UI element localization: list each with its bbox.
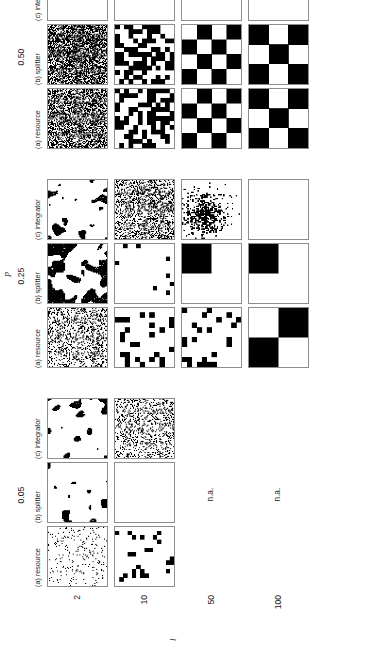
panel-resource-p050-l10 [114,88,175,149]
panel-canvas [182,308,241,367]
subpanel-label-resource-p050: (a) resource [34,110,41,149]
panel-resource-p005-l2 [47,526,108,587]
panel-canvas [115,399,174,458]
row-label-l-10: 10 [140,595,149,621]
panel-splitter-p025-l50 [181,243,242,304]
panel-canvas [115,463,174,522]
panel-splitter-p005-l2 [47,462,108,523]
p-axis-symbol: p [2,272,11,277]
panel-splitter-p025-l2 [47,243,108,304]
panel-canvas [115,89,174,148]
panel-resource-p005-l10 [114,526,175,587]
panel-splitter-p025-l10 [114,243,175,304]
panel-splitter-p005-l10 [114,462,175,523]
panel-canvas [249,308,308,367]
panel-canvas [182,25,241,84]
p-value-label-025: 0.25 [17,268,26,285]
panel-canvas [48,25,107,84]
p-value-label-005: 0.05 [17,487,26,504]
not-available-label: n.a. [207,488,215,502]
panel-canvas [115,0,174,20]
subpanel-label-splitter-p025: (b) splitter [34,272,41,304]
panel-integrator-p025-l10 [114,179,175,240]
panel-canvas [182,180,241,239]
panel-canvas [249,244,308,303]
subpanel-label-splitter-p005: (b) splitter [34,491,41,523]
panel-canvas [48,180,107,239]
panel-canvas [48,527,107,586]
panel-canvas [182,89,241,148]
panel-canvas [48,89,107,148]
subpanel-label-splitter-p050: (b) splitter [34,53,41,85]
panel-integrator-p050-l50 [181,0,242,21]
not-available-label: n.a. [274,488,282,502]
rotated-figure-wrapper: n.a.n.a.(a) resource(b) splitter(c) inte… [0,0,367,664]
panel-canvas [48,399,107,458]
panel-canvas [48,308,107,367]
panel-resource-p050-l2 [47,88,108,149]
panel-canvas [115,180,174,239]
panel-integrator-p025-l50 [181,179,242,240]
panel-resource-p050-l100 [248,88,309,149]
panel-splitter-p050-l100 [248,24,309,85]
subpanel-label-resource-p005: (a) resource [34,548,41,587]
panel-canvas [48,0,107,20]
panel-canvas [249,89,308,148]
panel-splitter-p050-l10 [114,24,175,85]
row-label-l-2: 2 [73,595,82,621]
panel-integrator-p005-l10 [114,398,175,459]
panel-integrator-p050-l2 [47,0,108,21]
panel-resource-p025-l2 [47,307,108,368]
panel-canvas [115,244,174,303]
l-axis-symbol: l [169,638,178,641]
panel-canvas [115,25,174,84]
panel-canvas [115,308,174,367]
panel-canvas [182,0,241,20]
subpanel-label-integrator-p005: (c) integrator [34,418,41,459]
panel-canvas [249,25,308,84]
panel-canvas [182,244,241,303]
panel-resource-p025-l10 [114,307,175,368]
panel-integrator-p005-l2 [47,398,108,459]
panel-integrator-p025-l2 [47,179,108,240]
panel-canvas [48,463,107,522]
panel-canvas [115,527,174,586]
subpanel-label-resource-p025: (a) resource [34,329,41,368]
panel-canvas [48,244,107,303]
panel-integrator-p050-l100 [248,0,309,21]
p-value-label-050: 0.50 [17,49,26,66]
panel-canvas [249,0,308,20]
row-label-l-100: 100 [274,595,283,621]
panel-canvas [249,180,308,239]
panel-splitter-p050-l50 [181,24,242,85]
panel-resource-p050-l50 [181,88,242,149]
subpanel-label-integrator-p025: (c) integrator [34,199,41,240]
panel-resource-p025-l50 [181,307,242,368]
panel-integrator-p025-l100 [248,179,309,240]
figure-root: n.a.n.a.(a) resource(b) splitter(c) inte… [0,0,367,664]
panel-splitter-p050-l2 [47,24,108,85]
panel-integrator-p050-l10 [114,0,175,21]
panel-grid: n.a.n.a.(a) resource(b) splitter(c) inte… [0,0,367,664]
panel-resource-p025-l100 [248,307,309,368]
row-label-l-50: 50 [207,595,216,621]
panel-splitter-p025-l100 [248,243,309,304]
subpanel-label-integrator-p050: (c) integrator [34,0,41,21]
